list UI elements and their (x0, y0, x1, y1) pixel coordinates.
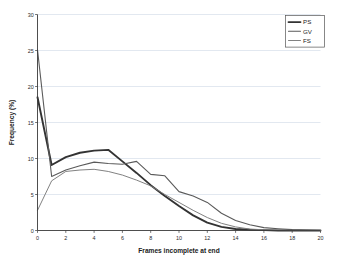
x-tick-label-14: 14 (233, 235, 239, 241)
y-tick-label-25: 25 (28, 48, 34, 54)
x-tick-labels-group: 02468101214161820 (36, 235, 324, 241)
y-tick-label-10: 10 (28, 156, 34, 162)
x-tick-label-20: 20 (318, 235, 324, 241)
x-tick-label-0: 0 (36, 235, 39, 241)
chart-figure: 051015202530 02468101214161820 Frequency… (0, 0, 340, 263)
legend-label-fs: FS (303, 37, 311, 44)
gridlines-group (38, 15, 321, 195)
series-line-ps (38, 97, 321, 230)
line-chart: 051015202530 02468101214161820 Frequency… (0, 0, 340, 263)
x-tick-label-6: 6 (121, 235, 124, 241)
y-tick-label-15: 15 (28, 120, 34, 126)
y-tick-label-0: 0 (31, 228, 34, 234)
data-series-group (38, 50, 321, 231)
x-tick-label-4: 4 (93, 235, 96, 241)
legend-label-ps: PS (303, 18, 311, 25)
x-tick-label-12: 12 (204, 235, 210, 241)
x-axis-title: Frames incomplete at end (138, 247, 219, 255)
series-line-fs (38, 169, 321, 230)
x-tick-label-18: 18 (289, 235, 295, 241)
x-tick-label-8: 8 (149, 235, 152, 241)
legend-label-gv: GV (303, 28, 313, 35)
y-tick-labels-group: 051015202530 (28, 12, 34, 234)
x-tick-label-16: 16 (261, 235, 267, 241)
tick-marks-group (35, 15, 320, 233)
x-tick-label-2: 2 (64, 235, 67, 241)
y-tick-label-30: 30 (28, 12, 34, 18)
y-axis-title: Frequency (%) (8, 100, 16, 145)
series-line-gv (38, 50, 321, 231)
x-tick-label-10: 10 (176, 235, 182, 241)
y-tick-label-20: 20 (28, 84, 34, 90)
y-tick-label-5: 5 (31, 192, 34, 198)
chart-legend: PSGVFS (286, 16, 325, 48)
